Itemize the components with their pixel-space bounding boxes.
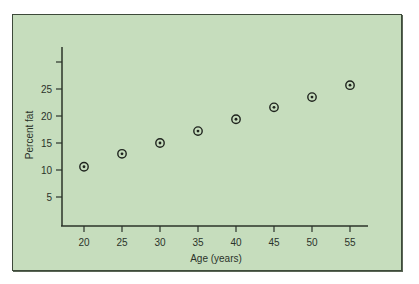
x-tick-label: 55 — [344, 237, 356, 248]
x-tick-label: 30 — [154, 237, 166, 248]
data-point — [118, 150, 126, 158]
y-tick-label: 25 — [41, 84, 53, 95]
data-point — [232, 115, 240, 123]
scatter-chart: 5101520252025303540455055 Age (years) Pe… — [0, 0, 419, 284]
y-tick-label: 20 — [41, 111, 53, 122]
data-points — [80, 81, 354, 171]
x-tick-label: 25 — [116, 237, 128, 248]
x-tick-label: 45 — [268, 237, 280, 248]
y-axis-title: Percent fat — [24, 111, 35, 160]
axes: 5101520252025303540455055 — [41, 47, 368, 248]
data-point — [80, 163, 88, 171]
y-tick-label: 5 — [46, 192, 52, 203]
data-point — [308, 93, 316, 101]
x-axis-title: Age (years) — [190, 253, 242, 264]
x-tick-label: 20 — [78, 237, 90, 248]
x-tick-label: 40 — [230, 237, 242, 248]
data-point — [270, 103, 278, 111]
x-tick-label: 50 — [306, 237, 318, 248]
data-point — [194, 127, 202, 135]
y-tick-label: 15 — [41, 138, 53, 149]
data-point — [156, 139, 164, 147]
y-tick-label: 10 — [41, 165, 53, 176]
data-point — [346, 81, 354, 89]
x-tick-label: 35 — [192, 237, 204, 248]
